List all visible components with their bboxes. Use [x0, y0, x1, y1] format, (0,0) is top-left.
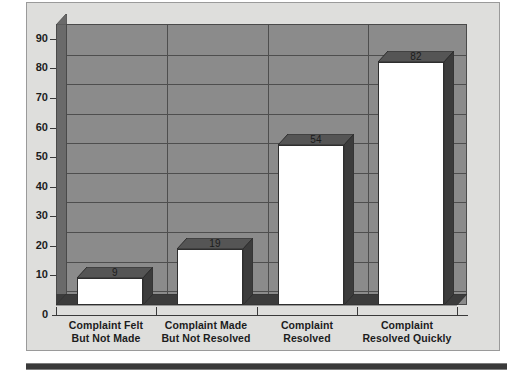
y-axis-tick-label: 90 — [22, 33, 48, 44]
x-axis-label-line: But Not Made — [56, 332, 156, 345]
y-axis-tick-label: 30 — [22, 210, 48, 221]
x-axis-label-line: Complaint — [257, 319, 357, 332]
x-axis-tick-mark — [457, 307, 458, 316]
x-axis-category-label-4: ComplaintResolved Quickly — [357, 319, 457, 344]
bar-value-label: 54 — [283, 134, 349, 145]
bar-value-label: 9 — [82, 267, 148, 278]
x-axis-category-label-1: Complaint FeltBut Not Made — [56, 319, 156, 344]
bar-value-label: 82 — [383, 51, 449, 62]
figure: 0102030405060708090 9195482 Complaint Fe… — [0, 0, 532, 376]
bar-4: 82 — [378, 51, 454, 305]
x-axis-tick-mark — [56, 307, 57, 316]
x-axis-category-label-2: Complaint MadeBut Not Resolved — [156, 319, 256, 344]
bar-2: 19 — [177, 238, 253, 305]
x-axis-label-line: Resolved — [257, 332, 357, 345]
x-axis-category-label-3: ComplaintResolved — [257, 319, 357, 344]
y-axis-tick-label: 10 — [22, 269, 48, 280]
bar-value-label: 19 — [182, 238, 248, 249]
x-axis-label-line: Complaint — [357, 319, 457, 332]
x-axis-tick-mark — [156, 307, 157, 316]
bar-1: 9 — [77, 267, 153, 305]
bar-3: 54 — [278, 134, 354, 305]
x-axis-line — [56, 315, 468, 316]
category-separator — [368, 25, 369, 304]
y-axis-tick-label: 40 — [22, 181, 48, 192]
category-separator — [268, 25, 269, 304]
y-axis-tick-label: 80 — [22, 62, 48, 73]
x-axis-tick-mark — [257, 307, 258, 316]
bar-3d-shape — [378, 51, 454, 305]
y-axis-tick-label: 20 — [22, 240, 48, 251]
y-axis-tick-label: 60 — [22, 122, 48, 133]
x-axis-label-line: Resolved Quickly — [357, 332, 457, 345]
x-axis-label-line: Complaint Felt — [56, 319, 156, 332]
y-axis-tick-label: 70 — [22, 92, 48, 103]
category-separator — [167, 25, 168, 304]
x-axis-label-line: But Not Resolved — [156, 332, 256, 345]
x-axis-tick-mark — [357, 307, 358, 316]
bottom-rule — [26, 363, 507, 370]
x-axis-label-line: Complaint Made — [156, 319, 256, 332]
y-axis-tick-label: 50 — [22, 151, 48, 162]
y-axis-tick-label: 0 — [22, 309, 48, 320]
bar-3d-shape — [278, 134, 354, 305]
